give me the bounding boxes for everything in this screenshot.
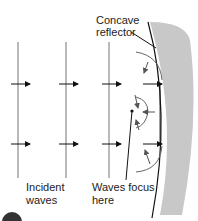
reflector-label-line2: reflector [96,26,136,38]
reflector-label-line1: Concave [96,14,139,26]
incident-waves-label-line1: Incident [26,181,65,193]
figure-badge [2,212,22,221]
incident-waves-label-line2: waves [26,194,57,206]
focus-label-line2: here [92,194,114,206]
focus-label-line1: Waves focus [92,181,155,193]
wave-reflection-diagram: Concave reflector Incident waves Waves f… [0,0,198,221]
